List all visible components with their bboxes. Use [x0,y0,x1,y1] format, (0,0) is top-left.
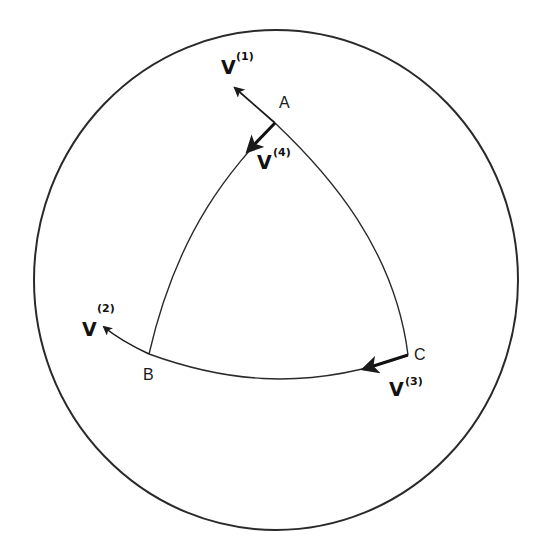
sphere-outline [34,30,518,530]
svg-text:(1): (1) [236,50,254,63]
svg-text:V: V [82,318,97,340]
svg-text:V: V [221,56,236,78]
svg-text:V: V [389,378,404,400]
arc-a-c [275,123,408,355]
svg-text:(2): (2) [97,302,115,315]
label-v2: V (2) [82,302,115,340]
svg-text:(4): (4) [273,146,291,159]
parallel-transport-diagram: A B C V (1) V (2) V (3) V (4) [0,0,539,541]
svg-text:V: V [257,151,272,173]
vector-v4-arrow [248,123,275,151]
vertex-label-b: B [143,366,154,383]
label-v3: V (3) [389,375,423,400]
vector-v1-arrow [235,88,275,123]
svg-text:(3): (3) [405,375,423,388]
vertex-label-c: C [414,346,426,363]
vector-v3-arrow [364,355,408,369]
vector-v2-arrow [104,327,149,354]
vertex-label-a: A [279,94,290,111]
label-v4: V (4) [257,146,291,173]
label-v1: V (1) [221,50,254,78]
